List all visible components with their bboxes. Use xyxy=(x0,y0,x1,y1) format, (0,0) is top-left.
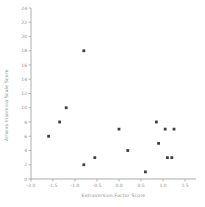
data-point xyxy=(93,156,96,159)
data-point xyxy=(118,128,121,131)
x-tick-label: 0.0 xyxy=(115,183,122,188)
data-point xyxy=(144,170,147,173)
data-point xyxy=(170,156,173,159)
data-point xyxy=(47,135,50,138)
data-point xyxy=(82,163,85,166)
y-tick-label: 8 xyxy=(24,120,27,125)
x-tick-label: -1.0 xyxy=(71,183,80,188)
data-point xyxy=(155,121,158,124)
y-tick-label: 18 xyxy=(21,48,27,53)
y-tick-label: 6 xyxy=(24,134,27,139)
data-point xyxy=(157,142,160,145)
data-point xyxy=(164,128,167,131)
x-tick-label: 1.0 xyxy=(159,183,166,188)
x-tick-label: 0.5 xyxy=(137,183,144,188)
y-tick-label: 16 xyxy=(21,63,27,68)
y-tick-label: 2 xyxy=(24,162,27,167)
data-point xyxy=(82,49,85,52)
data-point xyxy=(166,156,169,159)
y-tick-label: 0 xyxy=(24,177,27,182)
data-point xyxy=(65,106,68,109)
data-point xyxy=(126,149,129,152)
y-tick-label: 10 xyxy=(21,105,27,110)
scatter-figure: Athens Insomnia Scale Score 024681012141… xyxy=(0,0,205,207)
y-tick-label: 20 xyxy=(21,34,27,39)
x-axis-title: Extraversion Factor Score xyxy=(31,193,196,198)
x-tick-label: -0.5 xyxy=(93,183,102,188)
y-tick-label: 14 xyxy=(21,77,27,82)
y-tick-label: 4 xyxy=(24,148,27,153)
data-point xyxy=(58,121,61,124)
x-tick-label: 1.5 xyxy=(181,183,188,188)
x-tick-label: -1.5 xyxy=(49,183,58,188)
data-point xyxy=(173,128,176,131)
y-tick-label: 22 xyxy=(21,20,27,25)
plot-area: 024681012141618202224-2.0-1.5-1.0-0.50.0… xyxy=(0,0,205,207)
y-tick-label: 12 xyxy=(21,91,27,96)
y-tick-label: 24 xyxy=(21,6,27,11)
x-tick-label: -2.0 xyxy=(27,183,36,188)
